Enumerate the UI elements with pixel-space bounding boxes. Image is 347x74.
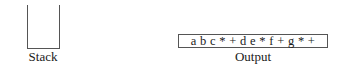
stack-label: Stack bbox=[17, 50, 69, 64]
output-label: Output bbox=[178, 50, 328, 64]
output-value: a b c * + d e * f + g * + bbox=[191, 35, 315, 47]
output-box: a b c * + d e * f + g * + bbox=[178, 34, 328, 48]
stack-container bbox=[27, 5, 60, 49]
